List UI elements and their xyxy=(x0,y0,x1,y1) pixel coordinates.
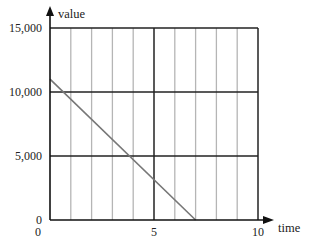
major-grid-lines xyxy=(50,28,258,220)
data-series xyxy=(50,79,196,220)
line-chart: 05,00010,00015,000 0510 value time xyxy=(0,0,309,245)
x-tick-label: 5 xyxy=(151,225,157,239)
x-tick-label: 10 xyxy=(252,225,264,239)
y-axis-arrow-icon xyxy=(46,6,54,16)
y-axis-label: value xyxy=(58,7,86,21)
series-line xyxy=(50,79,196,220)
axes xyxy=(46,6,274,224)
y-tick-label: 5,000 xyxy=(15,149,42,163)
y-tick-label: 10,000 xyxy=(9,85,42,99)
x-axis-label: time xyxy=(278,221,301,235)
x-tick-label: 0 xyxy=(35,225,41,239)
y-tick-labels: 05,00010,00015,000 xyxy=(9,21,42,227)
y-tick-label: 15,000 xyxy=(9,21,42,35)
x-tick-labels: 0510 xyxy=(35,225,264,239)
x-axis-arrow-icon xyxy=(263,216,274,224)
